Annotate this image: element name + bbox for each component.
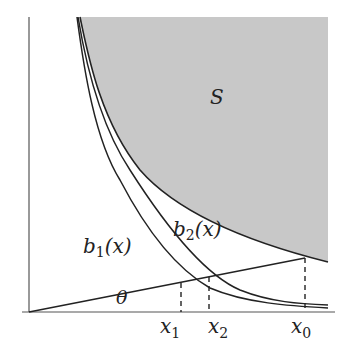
label-s: S (210, 85, 224, 109)
diagram-figure: S b1(x) b2(x) θ x1 x2 x0 (0, 0, 353, 360)
label-theta: θ (116, 286, 128, 308)
label-b1: b1(x) (83, 234, 132, 260)
label-b2: b2(x) (173, 217, 222, 243)
label-x1: x1 (160, 314, 180, 341)
label-x0: x0 (291, 314, 311, 341)
theta-ray (29, 258, 305, 312)
label-x2: x2 (208, 314, 228, 341)
